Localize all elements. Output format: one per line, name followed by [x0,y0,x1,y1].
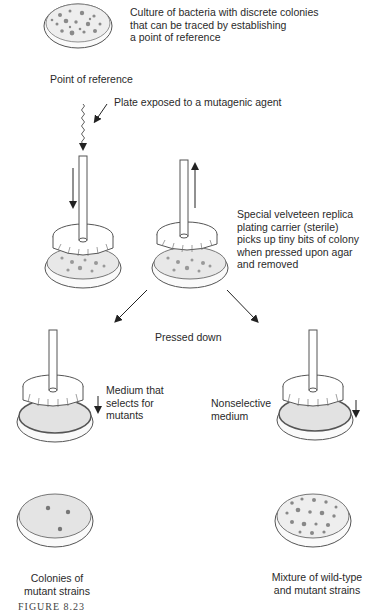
selective-dish-icon [17,330,93,442]
replica-dish-left-icon [45,156,121,288]
replica-dish-right-icon [152,160,228,288]
figure-caption: FIGURE 8.23 [18,601,85,611]
diagram-art [0,0,373,611]
mutagen-label: Plate exposed to a mutagenic agent [114,96,282,109]
mixture-label: Mixture of wild-type and mutant strains [262,571,372,596]
pressed-down-label: Pressed down [155,331,222,344]
mutant-colonies-label: Colonies of mutant strains [12,572,102,597]
velveteen-label: Special velveteen replica plating carrie… [237,208,359,271]
mixture-dish-icon [275,494,351,547]
nonselective-dish-icon [277,330,353,440]
culture-label: Culture of bacteria with discrete coloni… [130,6,319,44]
point-of-reference-label: Point of reference [50,73,133,86]
nonselective-medium-label: Nonselective medium [211,397,271,422]
mutant-colonies-dish-icon [17,494,93,547]
culture-dish-icon [44,4,112,48]
selective-medium-label: Medium that selects for mutants [106,384,164,422]
